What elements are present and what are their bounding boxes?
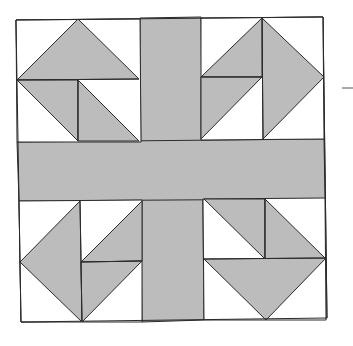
quilt-block-diagram bbox=[0, 0, 353, 346]
shaded-pieces bbox=[16, 17, 327, 322]
horizontal-band bbox=[17, 139, 325, 201]
faint-caption: · · · · · bbox=[332, 0, 349, 6]
